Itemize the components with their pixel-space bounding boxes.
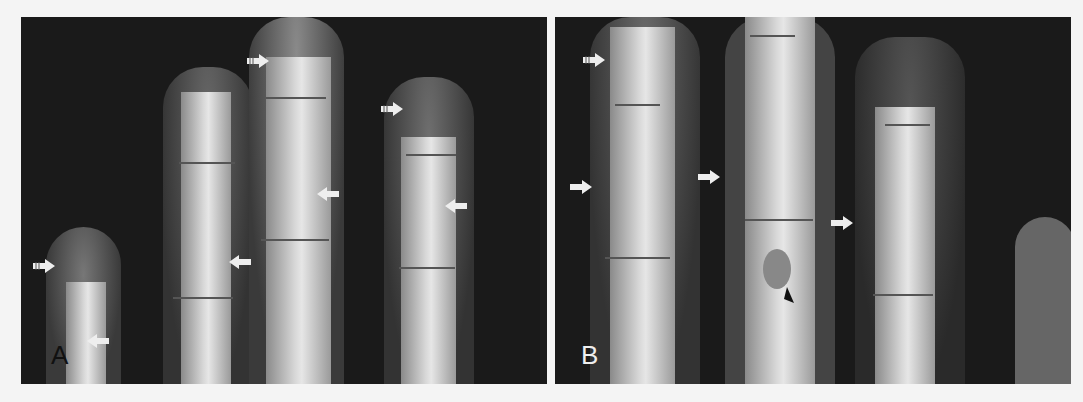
- phalanx: [66, 282, 106, 384]
- joint-line: [261, 239, 329, 241]
- joint-line: [885, 124, 930, 126]
- arrow-left-icon: [87, 334, 109, 348]
- phalanx: [401, 137, 456, 384]
- lesion: [763, 249, 791, 289]
- joint-line: [745, 219, 813, 221]
- panel-label-b: B: [581, 340, 598, 371]
- feathered-arrow-icon: [381, 102, 403, 116]
- phalanx: [610, 27, 675, 384]
- feathered-arrow-icon: [33, 259, 55, 273]
- panel-label-a: A: [51, 340, 68, 371]
- feathered-arrow-icon: [247, 54, 269, 68]
- joint-line: [399, 267, 455, 269]
- joint-line: [266, 97, 326, 99]
- joint-line: [873, 294, 933, 296]
- arrow-right-icon: [570, 180, 592, 194]
- phalanx: [266, 57, 331, 384]
- joint-line: [173, 297, 233, 299]
- xray-panel-b: B: [555, 17, 1071, 384]
- arrow-left-icon: [317, 187, 339, 201]
- arrow-right-icon: [698, 170, 720, 184]
- xray-panel-a: A: [21, 17, 547, 384]
- arrow-left-icon: [229, 255, 251, 269]
- arrow-right-icon: [831, 216, 853, 230]
- phalanx: [745, 17, 815, 384]
- feathered-arrow-icon: [583, 53, 605, 67]
- joint-line: [750, 35, 795, 37]
- phalanx: [181, 92, 231, 384]
- phalanx: [875, 107, 935, 384]
- joint-line: [179, 162, 235, 164]
- joint-line: [605, 257, 670, 259]
- arrowhead-icon: [784, 287, 794, 303]
- arrow-left-icon: [445, 199, 467, 213]
- joint-line: [615, 104, 660, 106]
- joint-line: [406, 154, 456, 156]
- finger-4: [1015, 217, 1071, 384]
